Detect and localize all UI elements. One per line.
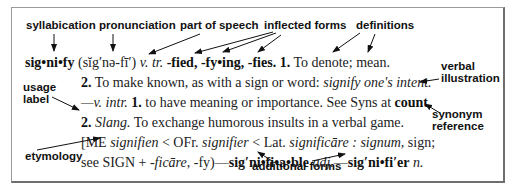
annotation-arrows (0, 0, 520, 196)
arrow-part-of-speech (149, 34, 200, 54)
arrow-etymology (37, 138, 100, 150)
arrow-additional-form-1 (258, 152, 272, 161)
arrow-usage-label (52, 97, 79, 110)
arrow-synonym-reference (425, 104, 440, 113)
arrow-inflected-3 (258, 35, 281, 52)
arrow-definitions-2 (368, 34, 375, 52)
arrow-verbal-illustration (420, 79, 439, 82)
arrow-inflected-2 (223, 33, 276, 52)
arrow-additional-form-2 (312, 154, 345, 161)
arrow-definitions-1 (333, 33, 360, 52)
